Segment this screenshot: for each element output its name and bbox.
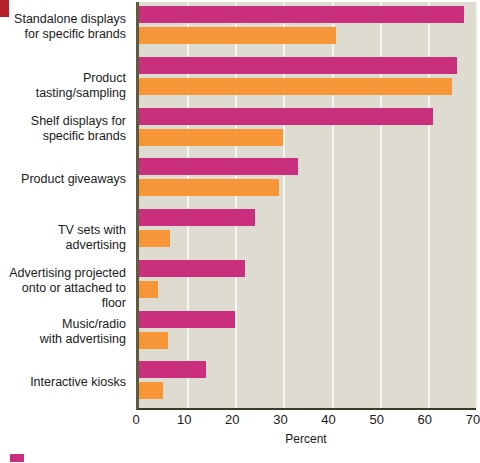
bar-group <box>139 53 476 104</box>
bar-group <box>139 154 476 205</box>
gridline-70 <box>476 2 478 408</box>
bar-series-2 <box>139 179 279 196</box>
bar-group <box>139 104 476 155</box>
bar-series-2 <box>139 27 336 44</box>
bar-series-1 <box>139 158 298 175</box>
bar-series-1 <box>139 209 255 226</box>
category-label: Advertising projected onto or attached t… <box>0 266 126 311</box>
bar-series-2 <box>139 332 168 349</box>
x-tick-label-30: 30 <box>273 412 287 427</box>
category-label: Standalone displays for specific brands <box>14 12 126 42</box>
x-tick-label-50: 50 <box>369 412 383 427</box>
x-tick-label-0: 0 <box>132 412 139 427</box>
plot-area <box>136 2 476 410</box>
bar-series-1 <box>139 57 457 74</box>
bar-group <box>139 256 476 307</box>
bar-group <box>139 357 476 408</box>
bar-rows <box>139 2 476 408</box>
chart-legend <box>10 454 477 463</box>
bar-series-2 <box>139 281 158 298</box>
bar-series-1 <box>139 361 206 378</box>
x-tick-label-20: 20 <box>225 412 239 427</box>
category-label: Music/radio with advertising <box>40 317 126 347</box>
bar-series-1 <box>139 311 235 328</box>
category-label: Product giveaways <box>21 172 126 187</box>
category-label: TV sets with advertising <box>0 223 126 253</box>
bar-series-2 <box>139 230 170 247</box>
bar-group <box>139 307 476 358</box>
category-label: Interactive kiosks <box>30 375 126 390</box>
x-tick-label-10: 10 <box>177 412 191 427</box>
category-axis-labels: Standalone displays for specific brandsP… <box>0 2 132 410</box>
bar-series-1 <box>139 6 464 23</box>
bar-series-2 <box>139 78 452 95</box>
x-axis-title: Percent <box>136 432 476 446</box>
x-axis-tick-labels: 010203040506070 <box>136 412 476 432</box>
bar-series-1 <box>139 260 245 277</box>
bar-series-1 <box>139 108 433 125</box>
legend-item <box>10 454 29 462</box>
x-tick-label-70: 70 <box>466 412 480 427</box>
legend-swatch <box>10 454 24 462</box>
x-tick-label-40: 40 <box>321 412 335 427</box>
bar-series-2 <box>139 382 163 399</box>
bar-group <box>139 205 476 256</box>
bar-group <box>139 2 476 53</box>
category-label: Product tasting/sampling <box>0 71 126 101</box>
bar-series-2 <box>139 129 283 146</box>
category-label: Shelf displays for specific brands <box>31 114 126 144</box>
x-tick-label-60: 60 <box>418 412 432 427</box>
